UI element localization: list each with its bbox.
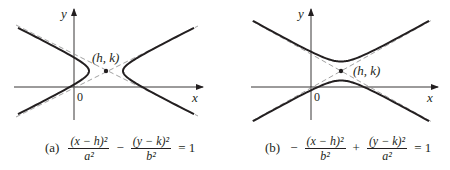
hyperbola-right-branch [123,28,194,114]
origin-label: 0 [314,90,320,104]
center-label: (h, k) [92,50,119,65]
caption-a: (a) (x − h)² a² − (y − k)² b² = 1 [45,130,199,166]
denominator: a² [82,149,96,163]
hyperbola-upper-branch [253,21,429,62]
center-label: (h, k) [353,63,380,78]
y-axis-label: y [296,6,304,21]
fraction-term-1: (x − h)² a² [68,134,109,163]
panel-a-graph: y x 0 (h, k) [14,6,203,120]
equals-rhs: = 1 [178,140,195,156]
equals-rhs: = 1 [414,140,431,156]
numerator: (x − h)² [305,134,346,149]
numerator: (y − k)² [131,134,171,149]
operator: − [116,140,123,156]
fraction-term-1: (x − h)² b² [305,134,346,163]
fraction-term-2: (y − k)² b² [131,134,171,163]
caption-b: (b) − (x − h)² b² + (y − k)² a² = 1 [265,130,435,166]
center-point [104,69,108,73]
leading-sign: − [290,140,297,156]
denominator: a² [380,149,394,163]
panel-b-graph: y x 0 (h, k) [251,6,438,122]
denominator: b² [144,149,158,163]
center-point [339,69,343,73]
origin-label: 0 [77,90,83,104]
fraction-term-2: (y − k)² a² [367,134,407,163]
operator: + [353,140,360,156]
x-axis-label: x [191,90,198,105]
x-axis-label: x [426,90,433,105]
numerator: (x − h)² [68,134,109,149]
numerator: (y − k)² [367,134,407,149]
y-axis-label: y [59,6,67,21]
caption-tag: (b) [265,140,280,156]
caption-tag: (a) [45,140,59,156]
denominator: b² [318,149,332,163]
